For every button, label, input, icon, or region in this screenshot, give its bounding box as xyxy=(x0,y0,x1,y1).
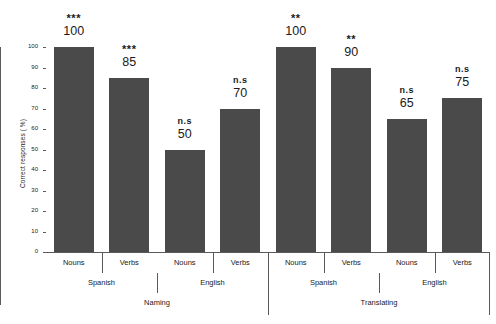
bar xyxy=(165,150,205,253)
language-group-divider xyxy=(379,273,380,293)
y-tick-mark xyxy=(43,47,46,48)
bar-value-label: 50 xyxy=(145,128,225,141)
bar xyxy=(331,68,371,253)
category-item-nouns: Nouns xyxy=(157,253,213,262)
bar-value-label: 75 xyxy=(422,76,496,89)
language-group-label: Spanish xyxy=(46,278,157,287)
y-tick-mark xyxy=(43,211,46,212)
y-tick-label: 40 xyxy=(31,166,38,172)
category-item-verbs: Verbs xyxy=(435,253,491,262)
task-group-naming: Naming xyxy=(46,293,268,302)
y-axis-title: Correct responses ( %) xyxy=(19,94,26,214)
category-divider xyxy=(213,253,214,273)
category-item-verbs: Verbs xyxy=(324,253,380,262)
category-item-label: Nouns xyxy=(157,258,213,267)
y-tick-label: 30 xyxy=(31,187,38,193)
y-tick-mark xyxy=(43,150,46,151)
y-axis-line xyxy=(0,47,1,305)
significance-marker: n.s xyxy=(145,117,225,128)
category-item-label: Nouns xyxy=(268,258,324,267)
category-item-verbs: Verbs xyxy=(213,253,269,262)
task-group-divider xyxy=(268,253,269,315)
bar xyxy=(54,47,94,252)
bar-value-label: 70 xyxy=(200,87,280,100)
y-tick-label: 10 xyxy=(31,228,38,234)
bar-annotation: n.s50 xyxy=(145,117,225,141)
category-item-label: Nouns xyxy=(379,258,435,267)
category-item-label: Verbs xyxy=(102,258,158,267)
bar xyxy=(109,78,149,252)
bar-chart-figure: Correct responses ( %) 10090807060504030… xyxy=(0,0,496,324)
bar-value-label: 65 xyxy=(367,97,447,110)
language-group-english: English xyxy=(157,273,268,282)
category-item-nouns: Nouns xyxy=(268,253,324,262)
significance-marker: ** xyxy=(311,35,391,46)
category-item-verbs: Verbs xyxy=(102,253,158,262)
bar xyxy=(387,119,427,252)
bar-annotation: ***85 xyxy=(89,45,169,69)
category-divider xyxy=(435,253,436,273)
y-tick-mark xyxy=(43,170,46,171)
category-item-label: Nouns xyxy=(46,258,102,267)
category-item-label: Verbs xyxy=(213,258,269,267)
y-tick-mark xyxy=(43,88,46,89)
language-group-spanish: Spanish xyxy=(46,273,157,282)
bar xyxy=(276,47,316,252)
language-group-divider xyxy=(157,273,158,293)
language-group-spanish: Spanish xyxy=(268,273,379,282)
language-group-label: English xyxy=(379,278,490,287)
category-item-nouns: Nouns xyxy=(46,253,102,262)
bar-value-label: 85 xyxy=(89,56,169,69)
task-group-translating: Translating xyxy=(268,293,490,302)
y-tick-mark xyxy=(43,232,46,233)
language-group-label: Spanish xyxy=(268,278,379,287)
bar-annotation: ***100 xyxy=(34,14,114,38)
bar-annotation: n.s75 xyxy=(422,65,496,89)
significance-marker: n.s xyxy=(200,76,280,87)
y-tick-label: 60 xyxy=(31,125,38,131)
bar xyxy=(442,98,482,252)
category-divider xyxy=(324,253,325,273)
bar-value-label: 100 xyxy=(34,25,114,38)
y-tick-mark xyxy=(43,129,46,130)
category-item-label: Verbs xyxy=(435,258,491,267)
y-tick-label: 70 xyxy=(31,105,38,111)
bar xyxy=(220,109,260,253)
task-group-label: Translating xyxy=(268,298,490,307)
y-tick-mark xyxy=(43,191,46,192)
language-group-english: English xyxy=(379,273,490,282)
bar-annotation: **90 xyxy=(311,35,391,59)
bar-annotation: n.s70 xyxy=(200,76,280,100)
y-tick-label: 80 xyxy=(31,84,38,90)
y-tick-mark xyxy=(43,109,46,110)
y-tick-label: 90 xyxy=(31,64,38,70)
task-group-label: Naming xyxy=(46,298,268,307)
y-tick-label: 0 xyxy=(35,248,38,254)
y-tick-label: 20 xyxy=(31,207,38,213)
y-tick-mark xyxy=(43,68,46,69)
y-tick-label: 50 xyxy=(31,146,38,152)
category-divider xyxy=(102,253,103,273)
language-group-label: English xyxy=(157,278,268,287)
y-tick-label: 100 xyxy=(28,43,38,49)
category-item-nouns: Nouns xyxy=(379,253,435,262)
category-item-label: Verbs xyxy=(324,258,380,267)
bar-value-label: 90 xyxy=(311,46,391,59)
